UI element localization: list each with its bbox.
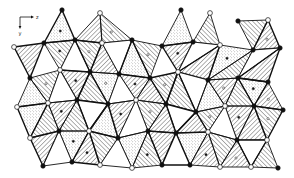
arrow-down-icon	[19, 26, 22, 29]
filled-atom-icon	[194, 110, 198, 114]
filled-atom-icon	[160, 44, 164, 48]
filled-atom-icon	[174, 131, 178, 135]
central-atom-icon	[238, 116, 240, 118]
arrow-right-icon	[31, 16, 34, 19]
central-atom-icon	[149, 111, 151, 113]
filled-atom-icon	[179, 8, 183, 12]
open-atom-icon	[249, 165, 254, 170]
filled-atom-icon	[251, 48, 255, 52]
polyhedron-hatch-left	[193, 13, 220, 45]
open-atom-icon	[87, 129, 92, 134]
central-atom-icon	[60, 110, 62, 112]
central-atom-icon	[59, 50, 61, 52]
filled-atom-icon	[236, 19, 240, 23]
open-atom-icon	[176, 70, 181, 75]
central-atom-icon	[146, 154, 148, 156]
axis-label-z: z	[36, 14, 39, 20]
polyhedra-layer	[14, 10, 283, 168]
open-atom-icon	[134, 98, 139, 103]
filled-atom-icon	[276, 166, 280, 170]
filled-atom-icon	[60, 8, 64, 12]
polyhedron-dots	[44, 10, 75, 43]
open-atom-icon	[223, 104, 228, 109]
central-atom-icon	[223, 87, 225, 89]
central-atom-icon	[86, 152, 88, 154]
filled-atom-icon	[106, 102, 110, 106]
filled-atom-icon	[130, 38, 134, 42]
central-atom-icon	[134, 83, 136, 85]
filled-atom-icon	[281, 108, 285, 112]
filled-atom-icon	[266, 80, 270, 84]
filled-atom-icon	[206, 78, 210, 82]
open-atom-icon	[58, 68, 63, 73]
central-atom-icon	[267, 118, 269, 120]
filled-atom-icon	[88, 70, 92, 74]
polyhedron-hatch-right	[75, 13, 102, 43]
filled-atom-icon	[57, 129, 61, 133]
crystal-structure-diagram: z y	[0, 0, 294, 178]
central-atom-icon	[110, 31, 112, 33]
filled-atom-icon	[28, 76, 32, 80]
open-atom-icon	[130, 166, 135, 171]
filled-atom-icon	[188, 163, 192, 167]
central-atom-icon	[120, 113, 122, 115]
open-atom-icon	[28, 136, 33, 141]
filled-atom-icon	[41, 164, 45, 168]
polyhedron-dots	[162, 10, 193, 46]
polyhedron-hatch-right	[14, 43, 44, 78]
central-atom-icon	[105, 82, 107, 84]
filled-atom-icon	[278, 46, 282, 50]
filled-atom-icon	[146, 129, 150, 133]
central-atom-icon	[164, 84, 166, 86]
filled-atom-icon	[73, 38, 77, 42]
filled-atom-icon	[42, 41, 46, 45]
axis-label-y: y	[19, 30, 22, 37]
filled-atom-icon	[252, 104, 256, 108]
central-atom-icon	[72, 140, 74, 142]
central-atom-icon	[45, 83, 47, 85]
central-atom-icon	[147, 54, 149, 56]
central-atom-icon	[88, 51, 90, 53]
open-atom-icon	[218, 165, 223, 170]
filled-atom-icon	[191, 40, 195, 44]
filled-atom-icon	[117, 72, 121, 76]
central-atom-icon	[75, 80, 77, 82]
filled-atom-icon	[75, 98, 79, 102]
filled-atom-icon	[235, 138, 239, 142]
open-atom-icon	[265, 138, 270, 143]
open-atom-icon	[100, 41, 105, 46]
filled-atom-icon	[148, 76, 152, 80]
open-atom-icon	[98, 163, 103, 168]
open-atom-icon	[208, 11, 213, 16]
central-atom-icon	[205, 154, 207, 156]
central-atom-icon	[226, 57, 228, 59]
central-atom-icon	[209, 116, 211, 118]
open-atom-icon	[206, 130, 211, 135]
filled-atom-icon	[236, 76, 240, 80]
open-atom-icon	[98, 11, 103, 16]
central-atom-icon	[235, 157, 237, 159]
central-atom-icon	[252, 88, 254, 90]
polyhedron-hatch-left	[100, 13, 132, 43]
filled-atom-icon	[164, 102, 168, 106]
central-atom-icon	[177, 52, 179, 54]
central-atom-icon	[266, 38, 268, 40]
filled-atom-icon	[160, 163, 164, 167]
open-atom-icon	[218, 43, 223, 48]
filled-atom-icon	[70, 160, 74, 164]
filled-atom-icon	[116, 136, 120, 140]
axis-indicator: z y	[19, 14, 40, 37]
open-atom-icon	[46, 101, 51, 106]
central-atom-icon	[59, 30, 61, 32]
open-atom-icon	[15, 105, 20, 110]
open-atom-icon	[266, 18, 271, 23]
central-atom-icon	[267, 98, 269, 100]
open-atom-icon	[12, 45, 17, 50]
